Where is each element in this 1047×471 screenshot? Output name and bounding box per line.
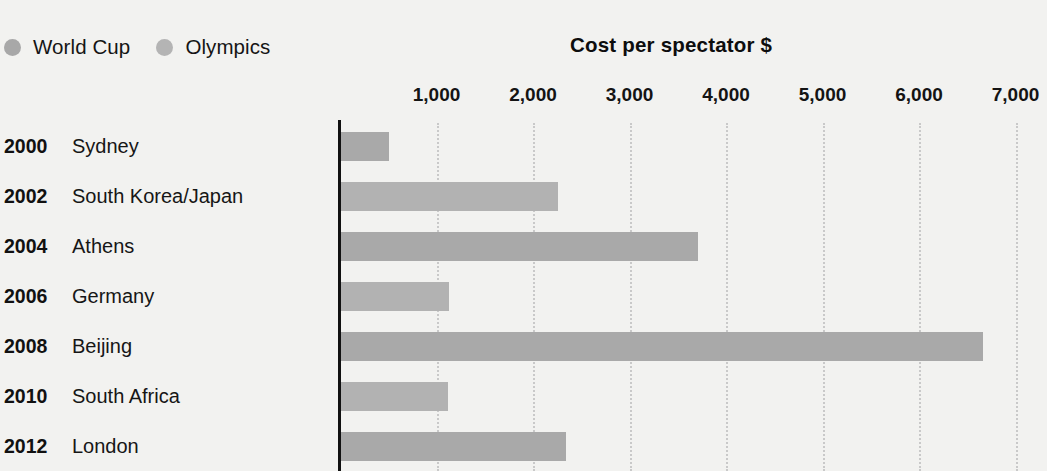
x-tick-label: 3,000 (606, 84, 654, 106)
x-tick-label: 5,000 (799, 84, 847, 106)
row-name-label: South Korea/Japan (72, 171, 243, 221)
x-tick-label: 1,000 (413, 84, 461, 106)
x-tick-label: 7,000 (992, 84, 1040, 106)
gridline (823, 123, 826, 471)
bar (341, 332, 983, 361)
bar (341, 282, 449, 311)
row-name-label: Beijing (72, 321, 132, 371)
row-year-label: 2004 (4, 221, 62, 271)
row-year-label: 2002 (4, 171, 62, 221)
bar (341, 232, 698, 261)
gridline (1016, 123, 1019, 471)
row-year-label: 2012 (4, 421, 62, 471)
bar (341, 132, 389, 161)
gridline (726, 123, 729, 471)
row-year-label: 2000 (4, 121, 62, 171)
gridline (919, 123, 922, 471)
row-name-label: Sydney (72, 121, 139, 171)
row-year-label: 2008 (4, 321, 62, 371)
x-tick-label: 4,000 (702, 84, 750, 106)
bar (341, 182, 558, 211)
row-name-label: Germany (72, 271, 154, 321)
y-axis-line (338, 120, 341, 471)
row-year-label: 2010 (4, 371, 62, 421)
row-name-label: South Africa (72, 371, 180, 421)
bar-chart-plot: 1,0002,0003,0004,0005,0006,0007,000 2000… (0, 0, 1047, 471)
bar (341, 382, 448, 411)
bar (341, 432, 566, 461)
row-name-label: London (72, 421, 139, 471)
x-tick-label: 6,000 (895, 84, 943, 106)
gridline (630, 123, 633, 471)
x-tick-label: 2,000 (509, 84, 557, 106)
gridline (533, 123, 536, 471)
row-name-label: Athens (72, 221, 134, 271)
row-year-label: 2006 (4, 271, 62, 321)
